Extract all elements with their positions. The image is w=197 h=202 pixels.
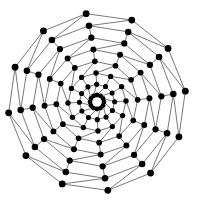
graph-node (120, 113, 125, 118)
graph-node (50, 128, 56, 134)
graph-edge (120, 55, 141, 73)
graph-edge (26, 156, 66, 173)
graph-edge (179, 91, 185, 137)
graph-edge (52, 14, 86, 40)
graph-node (77, 100, 82, 105)
graph-node (156, 54, 163, 61)
graph-node (147, 170, 154, 177)
graph-node (102, 175, 109, 182)
graph-node (65, 55, 71, 61)
graph-edge (151, 137, 179, 173)
graph-node (141, 122, 147, 128)
graph-edge (156, 96, 162, 129)
graph-node (42, 103, 48, 109)
graph-node (165, 45, 172, 52)
graph-edge (38, 75, 44, 106)
graph-edge (91, 38, 124, 44)
graph-edge (52, 26, 89, 40)
graph-node (182, 88, 189, 95)
graph-edge (105, 164, 142, 178)
graph-node (100, 163, 106, 169)
graph-node (65, 100, 70, 105)
graph-node (72, 65, 78, 71)
graph-node (130, 118, 136, 124)
graph-node (49, 37, 56, 44)
graph-edge (27, 31, 44, 71)
graph-edge (60, 38, 91, 49)
graph-node (139, 161, 146, 168)
graph-edge (101, 146, 127, 155)
graph-edge (159, 57, 185, 91)
graph-edge (149, 98, 155, 129)
graph-edge (89, 20, 132, 26)
graph-edge (159, 57, 173, 94)
graph-node (123, 98, 128, 103)
graph-node (104, 187, 111, 194)
graph-edge (15, 31, 43, 67)
graph-node (59, 181, 66, 188)
graph-edge (144, 98, 149, 125)
graph-node (67, 157, 73, 163)
graph-edge (50, 49, 60, 79)
graph-node (30, 105, 36, 111)
graph-edge (134, 125, 144, 155)
graph-node (90, 47, 96, 53)
graph-edge (79, 138, 100, 142)
graph-edge (126, 101, 133, 120)
graph-node (79, 109, 84, 114)
graph-node (86, 22, 93, 29)
graph-node (170, 91, 177, 98)
graph-node (69, 86, 74, 91)
graph-edge (103, 155, 134, 166)
graph-edge (93, 43, 124, 49)
graph-nodes (5, 10, 188, 193)
graph-edge (9, 113, 26, 156)
graph-node (121, 40, 127, 46)
graph-edge (62, 184, 108, 190)
graph-node (81, 125, 86, 130)
graph-edge (21, 110, 35, 147)
graph-edges (9, 14, 186, 191)
graph-edge (15, 67, 21, 110)
graph-edge (103, 146, 127, 167)
graph-node (93, 70, 98, 75)
graph-node (95, 128, 100, 133)
graph-edge (53, 131, 74, 149)
graph-edge (128, 32, 159, 57)
graph-node (92, 59, 98, 65)
graph-edge (33, 75, 39, 108)
graph-node (164, 130, 171, 137)
graph-node (131, 152, 137, 158)
graph-edge (50, 58, 68, 79)
graph-node (57, 46, 63, 52)
graph-node (110, 124, 115, 129)
graph-edge (126, 125, 144, 146)
graph-edge (62, 178, 105, 184)
graph-node (86, 115, 91, 120)
graph-edge (9, 67, 15, 113)
graph-edge (33, 108, 44, 139)
graph-node (110, 90, 115, 95)
graph-edge (173, 94, 179, 137)
graph-edge (70, 161, 103, 167)
graph-edge (141, 73, 162, 97)
graph-edge (9, 113, 35, 147)
graph-node (24, 68, 31, 75)
graph-edge (132, 20, 168, 48)
graph-edge (168, 48, 185, 91)
graph-edge (95, 61, 116, 65)
graph-node (158, 93, 164, 99)
graph-edge (66, 172, 105, 178)
graph-node (116, 133, 122, 139)
graph-edge (44, 139, 74, 149)
graph-node (112, 99, 117, 104)
graph-edge (142, 133, 167, 164)
graph-edge (96, 66, 115, 73)
graph-node (96, 140, 102, 146)
graph-node (98, 151, 104, 157)
graph-edge (56, 84, 60, 105)
graph-edge (93, 50, 120, 55)
graph-edge (86, 14, 132, 20)
graph-node (128, 77, 134, 83)
graph-node (138, 70, 144, 76)
